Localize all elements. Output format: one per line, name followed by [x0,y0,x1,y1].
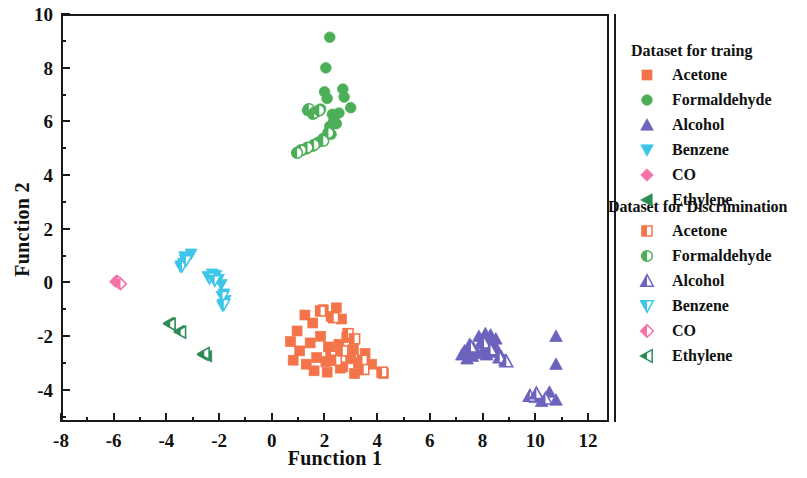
legend-item-training-alcohol[interactable]: Alcohol [636,114,724,135]
x-tick-minor [244,417,246,422]
legend-marker-triangle-down [636,141,658,159]
y-tick-label-7: 10 [15,5,53,24]
data-point-square [308,318,318,328]
x-tick-minor [192,417,194,422]
data-point-square-half [338,346,348,356]
y-tick-minor [61,40,66,42]
legend-label: Ethylene [672,348,732,364]
legend-group-title-training: Dataset for traing [631,43,752,60]
data-point-square [309,366,319,376]
y-tick-major [61,13,70,15]
scatter-canvas [63,16,607,420]
y-tick-minor [61,308,66,310]
y-tick-label-5: 6 [15,112,53,131]
y-tick-major [61,174,70,176]
x-tick-major [271,413,273,422]
x-tick-minor [350,417,352,422]
data-point-square [348,345,358,355]
x-axis-title: Function 1 [61,447,609,470]
legend-item-discrimination-ethylene[interactable]: Ethylene [636,345,732,366]
x-tick-major [165,413,167,422]
legend-label: CO [672,167,696,183]
legend-item-training-benzene[interactable]: Benzene [636,139,729,160]
legend-marker-triangle-down-half [636,297,658,315]
data-point-square [288,355,298,365]
legend-marker-triangle-left [636,191,658,209]
y-tick-minor [61,147,66,149]
y-tick-minor [61,201,66,203]
y-tick-label-1: -2 [15,327,53,346]
data-point-square [331,303,341,313]
y-tick-major [61,67,70,69]
legend-label: Formaldehyde [672,248,772,264]
data-point-square [305,338,315,348]
legend-marker-square-half [636,222,658,240]
legend-item-discrimination-acetone[interactable]: Acetone [636,220,727,241]
data-point-square-half [357,355,367,365]
x-tick-minor [139,417,141,422]
x-tick-minor [561,417,563,422]
data-point-circle-half [292,148,303,159]
legend-item-discrimination-alcohol[interactable]: Alcohol [636,270,724,291]
x-tick-minor [86,417,88,422]
plot-area [61,14,609,422]
x-tick-major [113,413,115,422]
x-tick-major [587,413,589,422]
x-tick-minor [403,417,405,422]
x-tick-major [534,413,536,422]
y-tick-label-4: 4 [15,166,53,185]
data-point-circle [328,116,339,127]
data-point-circle-half [314,105,325,116]
legend-label: Benzene [672,298,729,314]
legend-item-training-co[interactable]: CO [636,164,696,185]
legend-label: Ethylene [672,192,732,208]
data-point-circle [345,102,356,113]
legend-item-discrimination-co[interactable]: CO [636,320,696,341]
data-point-square [316,331,326,341]
data-point-triangle-up [550,358,563,370]
chart-legend: Dataset for traing Dataset for Discrimin… [614,14,807,422]
legend-item-training-formaldehyde[interactable]: Formaldehyde [636,89,772,110]
legend-item-training-acetone[interactable]: Acetone [636,64,727,85]
y-tick-minor [61,362,66,364]
data-point-square-half [359,365,369,375]
legend-item-training-ethylene[interactable]: Ethylene [636,189,732,210]
chart-root: Function 2 -8-6-4-2024681012-4-20246810 … [0,0,807,478]
legend-label: Benzene [672,142,729,158]
y-tick-minor [61,416,66,418]
legend-label: Alcohol [672,273,724,289]
data-point-square [312,353,322,363]
legend-marker-circle [636,91,658,109]
legend-marker-diamond [636,166,658,184]
x-tick-major [482,413,484,422]
data-point-circle [322,93,333,104]
legend-marker-triangle-up-half [636,272,658,290]
data-point-square [295,346,305,356]
y-tick-minor [61,94,66,96]
data-point-square [292,326,302,336]
y-tick-major [61,335,70,337]
y-tick-minor [61,255,66,257]
data-point-square-half [329,313,339,323]
legend-label: Acetone [672,67,727,83]
x-tick-minor [508,417,510,422]
y-tick-label-6: 8 [15,58,53,77]
data-point-square [286,337,296,347]
y-tick-major [61,120,70,122]
legend-label: Acetone [672,223,727,239]
legend-item-discrimination-formaldehyde[interactable]: Formaldehyde [636,245,772,266]
legend-marker-circle-half [636,247,658,265]
data-point-circle [320,62,331,73]
x-tick-major [429,413,431,422]
x-tick-minor [297,417,299,422]
legend-marker-square [636,66,658,84]
series-alcohol-discrimination [465,337,552,404]
legend-label: Alcohol [672,117,724,133]
x-tick-major [323,413,325,422]
y-tick-label-2: 0 [15,273,53,292]
data-point-square-half [316,306,326,316]
data-point-circle [339,92,350,103]
series-ethylene-discrimination [164,318,209,359]
legend-item-discrimination-benzene[interactable]: Benzene [636,295,729,316]
data-point-triangle-up [550,330,563,342]
